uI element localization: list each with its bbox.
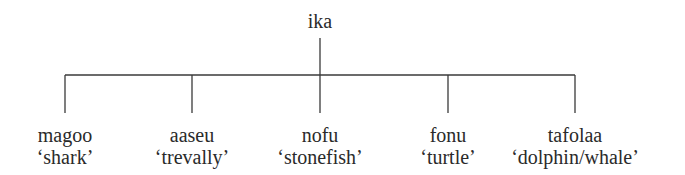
child-word-tafolaa: tafolaa bbox=[548, 124, 602, 146]
child-gloss-fonu: ‘turtle’ bbox=[420, 146, 476, 168]
child-word-magoo: magoo bbox=[38, 124, 92, 146]
child-gloss-magoo: ‘shark’ bbox=[37, 146, 94, 168]
child-word-fonu: fonu bbox=[430, 124, 467, 146]
child-gloss-tafolaa: ‘dolphin/whale’ bbox=[511, 146, 639, 168]
child-word-aaseu: aaseu bbox=[170, 124, 214, 146]
taxonomy-tree: ika magoo ‘shark’ aaseu ‘trevally’ nofu … bbox=[0, 0, 685, 175]
child-gloss-nofu: ‘stonefish’ bbox=[277, 146, 363, 168]
child-gloss-aaseu: ‘trevally’ bbox=[155, 146, 229, 168]
root-node-label: ika bbox=[308, 10, 332, 32]
child-word-nofu: nofu bbox=[302, 124, 339, 146]
